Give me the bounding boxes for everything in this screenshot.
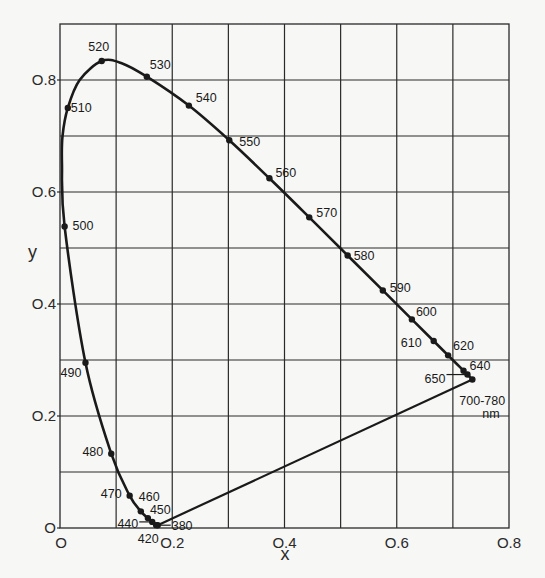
wavelength-label-500: 500 <box>73 219 94 233</box>
wavelength-marker-550 <box>226 137 232 143</box>
wavelength-marker-490 <box>82 360 88 366</box>
wavelength-marker-470 <box>126 492 132 498</box>
wavelength-label-510: 510 <box>71 101 92 115</box>
wavelength-label-640: 640 <box>470 359 491 373</box>
wavelength-marker-560 <box>266 175 272 181</box>
wavelength-label-560: 560 <box>275 166 296 180</box>
x-tick-label: O.6 <box>385 534 409 551</box>
wavelength-marker-610 <box>430 338 436 344</box>
wavelength-marker-590 <box>380 287 386 293</box>
chromaticity-chart: OO.2O.4O.6O.8OO.2O.4O.6O.8 x y 380420440… <box>0 0 545 578</box>
wavelength-label-420: 420 <box>138 532 159 546</box>
wavelength-marker-570 <box>306 214 312 220</box>
wavelength-label-440: 440 <box>117 517 138 531</box>
wavelength-label-700-780: 700-780 <box>459 394 505 408</box>
wavelength-label-550: 550 <box>239 135 260 149</box>
x-tick-label: O.8 <box>497 534 521 551</box>
wavelength-marker-700-780 <box>469 376 475 382</box>
y-tick-label: O <box>44 519 56 536</box>
wavelength-marker-480 <box>108 450 114 456</box>
x-tick-label: O <box>55 534 67 551</box>
wavelength-label-650: 650 <box>425 372 446 386</box>
grid <box>60 24 509 528</box>
wavelength-label-570: 570 <box>316 206 337 220</box>
wavelength-label-540: 540 <box>196 91 217 105</box>
wavelength-marker-530 <box>144 73 150 79</box>
y-tick-label: O.2 <box>32 407 56 424</box>
y-axis-label: y <box>28 242 37 262</box>
wavelength-label-610: 610 <box>401 336 422 350</box>
x-tick-label: O.2 <box>160 534 184 551</box>
y-tick-label: O.8 <box>32 71 56 88</box>
wavelength-label-580: 580 <box>354 249 375 263</box>
wavelength-labels: 3804204404504604704804905005105205305405… <box>61 40 506 546</box>
wavelength-label-590: 590 <box>390 281 411 295</box>
wavelength-marker-600 <box>409 316 415 322</box>
wavelength-label-460: 460 <box>139 490 160 504</box>
wavelength-label-450: 450 <box>150 503 171 517</box>
wavelength-label-530: 530 <box>150 58 171 72</box>
wavelength-label-600: 600 <box>416 305 437 319</box>
wavelength-markers <box>61 58 475 529</box>
spectral-locus-curve <box>62 60 473 526</box>
purple-line <box>158 379 473 525</box>
wavelength-marker-620 <box>445 352 451 358</box>
x-axis-label: x <box>281 544 290 564</box>
wavelength-label-620: 620 <box>453 339 474 353</box>
wavelength-marker-580 <box>344 252 350 258</box>
y-tick-label: O.4 <box>32 295 56 312</box>
wavelength-label-470: 470 <box>101 487 122 501</box>
wavelength-label-380: 380 <box>172 519 193 533</box>
unit-label-nm: nm <box>482 407 499 421</box>
wavelength-marker-540 <box>186 102 192 108</box>
wavelength-label-480: 480 <box>82 445 103 459</box>
wavelength-label-520: 520 <box>88 40 109 54</box>
tick-labels: OO.2O.4O.6O.8OO.2O.4O.6O.8 <box>32 71 521 551</box>
y-tick-label: O.6 <box>32 183 56 200</box>
wavelength-marker-460 <box>138 508 144 514</box>
wavelength-marker-520 <box>99 58 105 64</box>
wavelength-marker-500 <box>61 223 67 229</box>
wavelength-label-490: 490 <box>61 366 82 380</box>
